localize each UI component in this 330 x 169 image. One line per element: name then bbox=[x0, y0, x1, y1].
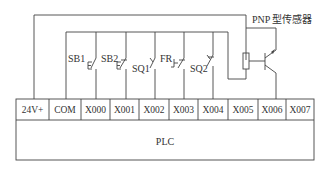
terminal-x002: X002 bbox=[143, 105, 164, 115]
terminal-24v: 24V+ bbox=[22, 105, 44, 115]
sb1-contact bbox=[91, 58, 96, 68]
plc-wiring-diagram: SB1 SB2 SQ1 FR SQ2 PNP 型传感器 24V+ COM X00… bbox=[0, 0, 330, 169]
transistor-collector-to-x006 bbox=[265, 65, 276, 99]
terminal-x003: X003 bbox=[173, 105, 194, 115]
fr-contact bbox=[178, 58, 185, 68]
plc-label: PLC bbox=[156, 136, 175, 147]
sq1-label: SQ1 bbox=[132, 63, 150, 74]
terminal-com: COM bbox=[54, 105, 76, 115]
terminal-x006: X006 bbox=[261, 105, 282, 115]
sb2-contact bbox=[120, 58, 127, 68]
sq2-label: SQ2 bbox=[190, 63, 208, 74]
sq1-contact bbox=[150, 58, 155, 68]
terminal-x004: X004 bbox=[202, 105, 223, 115]
sensor-label: PNP 型传感器 bbox=[252, 13, 312, 25]
fr-label: FR bbox=[160, 53, 173, 64]
terminal-x001: X001 bbox=[114, 105, 135, 115]
terminal-x005: X005 bbox=[232, 105, 253, 115]
terminal-x000: X000 bbox=[85, 105, 106, 115]
transistor-emitter bbox=[246, 28, 276, 58]
sq2-contact bbox=[207, 55, 214, 66]
terminal-x007: X007 bbox=[289, 105, 310, 115]
sb1-label: SB1 bbox=[68, 53, 85, 64]
sb2-label: SB2 bbox=[101, 53, 118, 64]
